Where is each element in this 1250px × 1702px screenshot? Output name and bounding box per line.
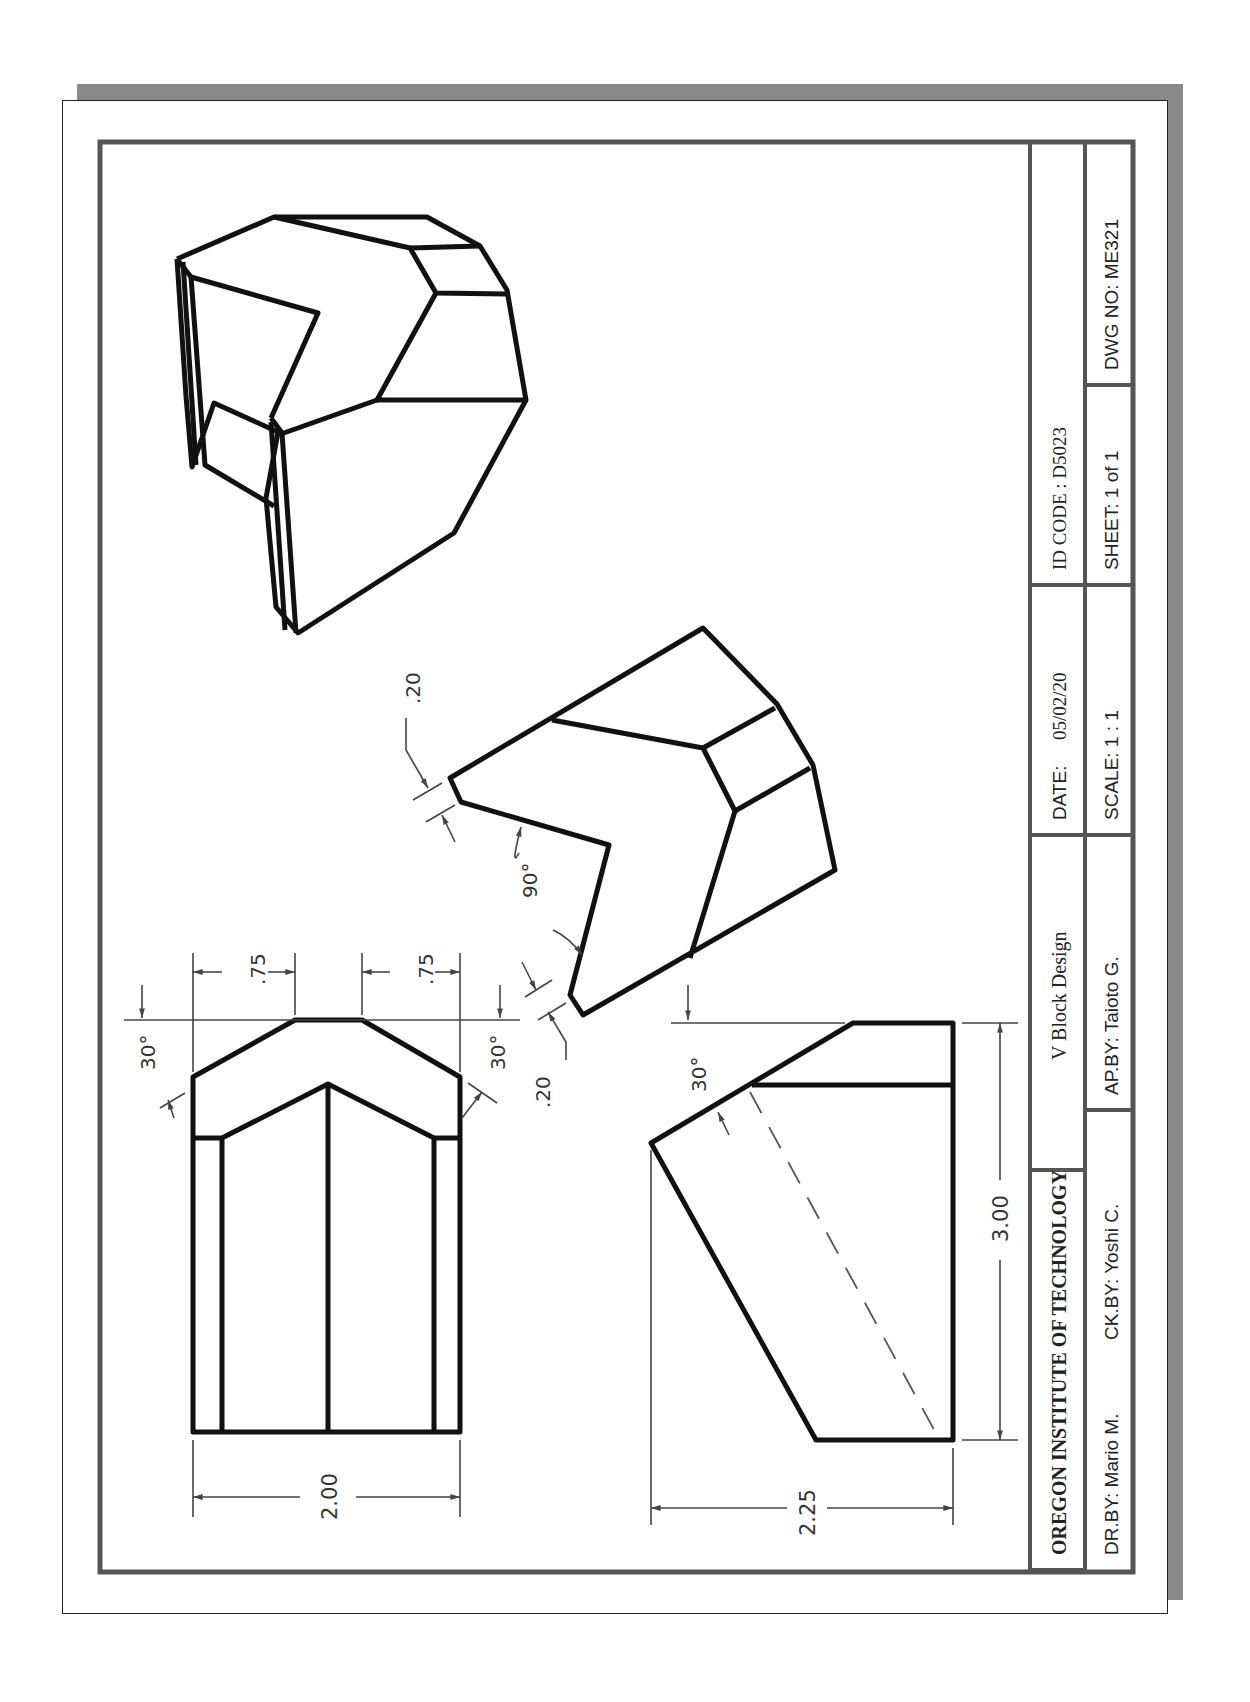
drawing-canvas: .20 .20 90° .75 .75 30° 30° 2.00 [0, 0, 1250, 1702]
tb-scale: SCALE: 1 : 1 [1101, 710, 1122, 820]
front-dim-left-angle: 30° [136, 1035, 160, 1070]
tb-title: V Block Design [1048, 931, 1071, 1060]
aux-dim-bottom-offset: .20 [531, 1076, 555, 1108]
side-dim-height: 3.00 [989, 1195, 1013, 1242]
tb-checked-by: CK.BY: Yoshi C. [1101, 1204, 1122, 1340]
front-dim-right-angle: 30° [486, 1035, 510, 1070]
aux-dim-top-offset: .20 [401, 672, 425, 704]
tb-date-value: 05/02/20 [1049, 672, 1070, 740]
tb-id-code: ID CODE : D5023 [1049, 427, 1070, 570]
front-view [193, 1020, 460, 1432]
isometric-view [177, 217, 526, 633]
side-dim-angle: 30° [687, 1057, 711, 1092]
side-dim-depth: 2.25 [796, 1489, 820, 1536]
front-dim-right-chamfer: .75 [414, 953, 438, 985]
drawing-border [100, 142, 1133, 1572]
tb-institution: OREGON INSTITUTE OF TECHNOLOGY [1048, 1169, 1070, 1555]
front-dim-overall-width: 2.00 [318, 1473, 342, 1520]
auxiliary-dimensions [406, 718, 582, 1060]
front-dim-left-chamfer: .75 [246, 953, 270, 985]
tb-date-label: DATE: [1049, 765, 1070, 820]
tb-approved-by: AP.BY: Taioto G. [1101, 956, 1122, 1095]
tb-sheet: SHEET: 1 of 1 [1101, 451, 1122, 570]
auxiliary-view [450, 628, 835, 1015]
tb-dwg-no: DWG NO: ME321 [1101, 219, 1122, 370]
aux-dim-v-angle: 90° [518, 863, 542, 898]
tb-drawn-by: DR.BY: Mario M. [1101, 1414, 1122, 1555]
hidden-line [750, 1092, 938, 1437]
